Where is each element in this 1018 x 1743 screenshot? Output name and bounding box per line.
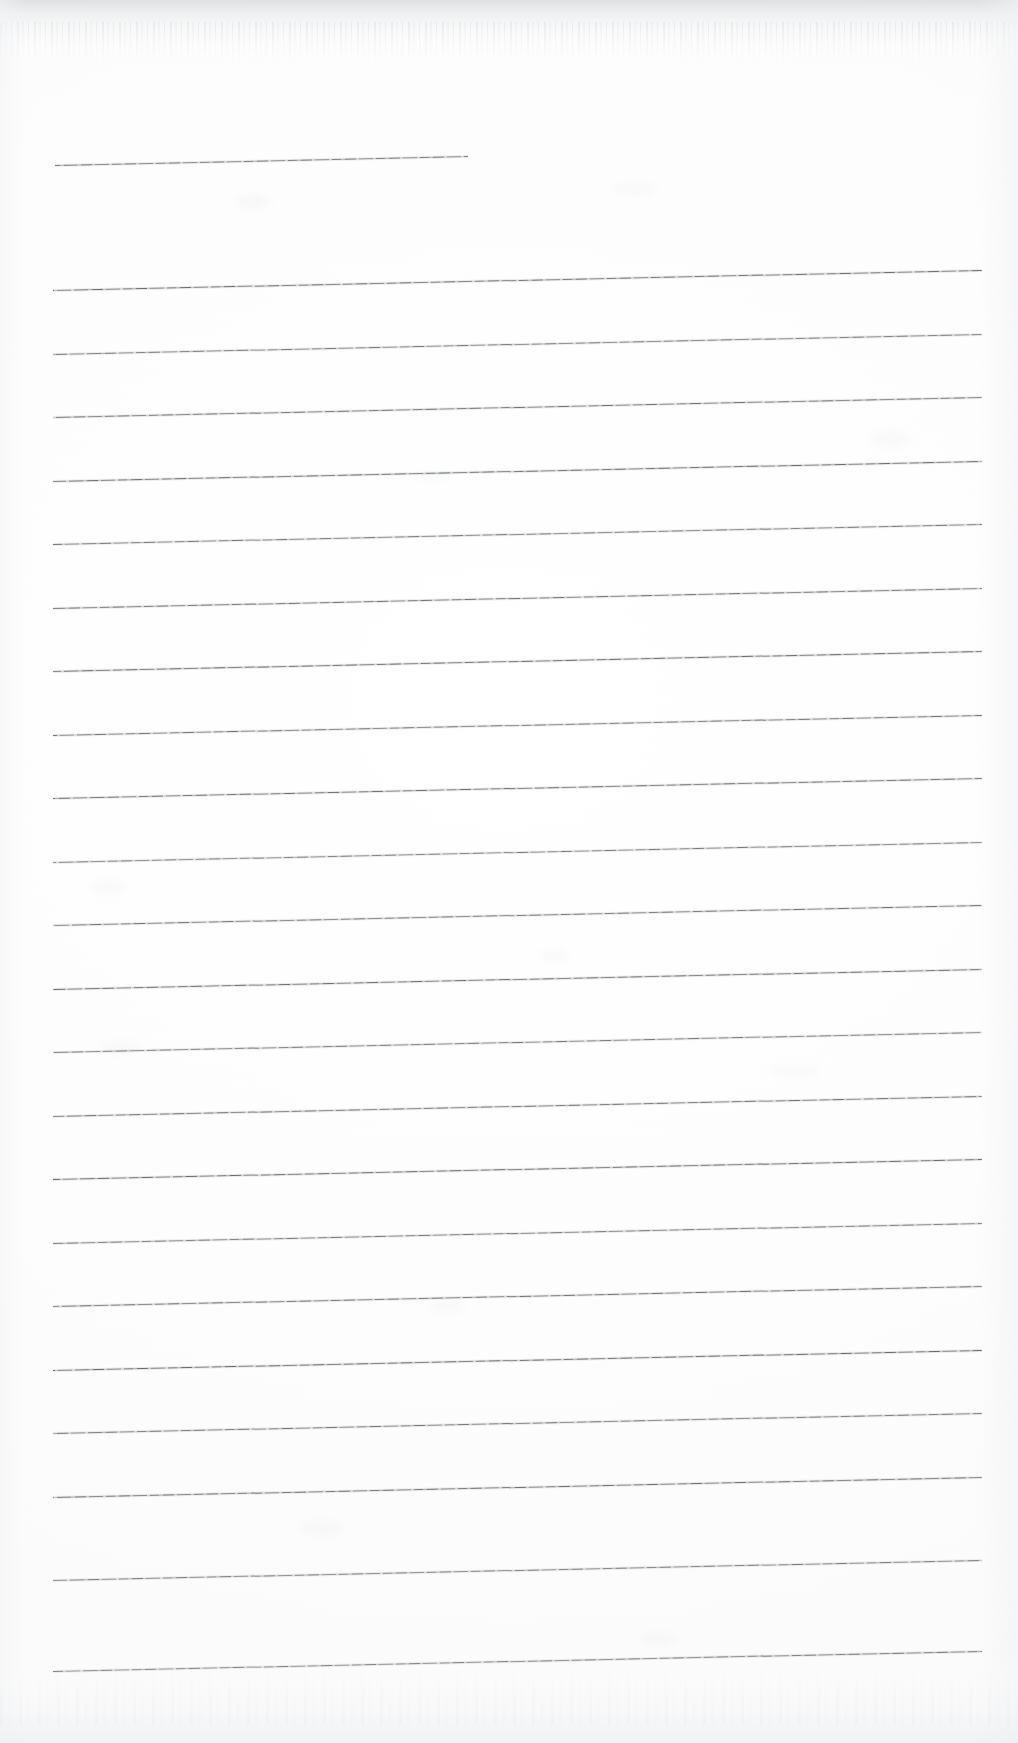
ruled-line <box>53 270 982 291</box>
ruled-line <box>53 969 982 990</box>
ruled-lines-group <box>0 0 1018 1743</box>
ruled-line <box>53 1651 982 1672</box>
ruled-line <box>53 651 982 672</box>
ruled-line <box>53 1286 982 1307</box>
ruled-line <box>53 334 982 355</box>
ruled-line <box>53 524 982 545</box>
ruled-line <box>53 1223 982 1244</box>
ruled-line <box>53 588 982 609</box>
ruled-line-short <box>55 156 468 166</box>
ruled-line <box>53 842 982 863</box>
ruled-line <box>53 397 982 418</box>
ruled-line <box>53 1477 982 1498</box>
ruled-line <box>53 778 982 799</box>
ruled-line <box>53 1096 982 1117</box>
ruled-line <box>53 461 982 482</box>
ruled-line <box>53 905 982 926</box>
scanned-page <box>0 0 1018 1743</box>
ruled-line <box>53 1032 982 1053</box>
ruled-line <box>53 715 982 736</box>
ruled-line <box>53 1159 982 1180</box>
ruled-line <box>53 1350 982 1371</box>
ruled-line <box>53 1560 982 1581</box>
ruled-line <box>53 1413 982 1434</box>
